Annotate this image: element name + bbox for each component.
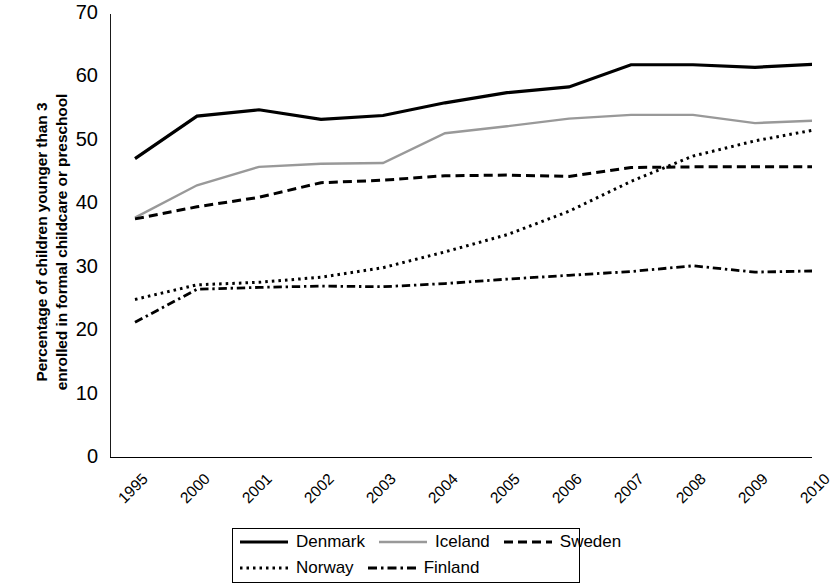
y-tick-label: 0 <box>56 445 98 468</box>
y-tick-label: 50 <box>56 128 98 151</box>
legend-row-2: Norway Finland <box>233 555 579 581</box>
legend-label-denmark: Denmark <box>290 532 377 552</box>
y-tick-label: 70 <box>56 1 98 24</box>
legend-key-sweden <box>502 535 554 549</box>
legend-key-norway <box>238 561 290 575</box>
legend-item-sweden[interactable]: Sweden <box>502 532 633 552</box>
y-tick-label: 10 <box>56 382 98 405</box>
y-tick-label: 60 <box>56 64 98 87</box>
legend-row-1: Denmark Iceland Sweden <box>233 529 579 555</box>
legend-label-finland: Finland <box>418 558 492 578</box>
y-tick-label: 30 <box>56 255 98 278</box>
chart-svg <box>110 14 812 458</box>
legend-label-norway: Norway <box>290 558 366 578</box>
legend-item-denmark[interactable]: Denmark <box>238 532 377 552</box>
series-line-norway <box>135 129 812 299</box>
legend-label-sweden: Sweden <box>554 532 633 552</box>
series-line-finland <box>135 266 812 322</box>
series-line-denmark <box>135 64 812 159</box>
legend-item-finland[interactable]: Finland <box>366 558 492 578</box>
legend-item-iceland[interactable]: Iceland <box>377 532 502 552</box>
chart-legend: Denmark Iceland Sweden Norway Finland <box>232 528 580 583</box>
legend-label-iceland: Iceland <box>429 532 502 552</box>
y-tick-label: 40 <box>56 191 98 214</box>
legend-item-norway[interactable]: Norway <box>238 558 366 578</box>
plot-area <box>110 14 812 458</box>
y-axis-title-line1: Percentage of children younger than 3 <box>32 22 52 462</box>
y-tick-label: 20 <box>56 318 98 341</box>
legend-key-denmark <box>238 535 290 549</box>
legend-key-iceland <box>377 535 429 549</box>
legend-key-finland <box>366 561 418 575</box>
